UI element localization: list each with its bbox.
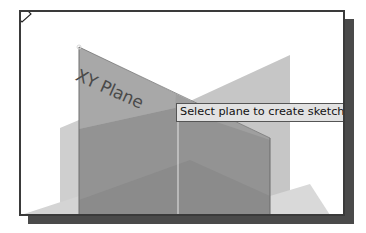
frame-shadow-bottom: [28, 215, 354, 224]
graphics-viewport[interactable]: XY Plane Select plane to create sketch o…: [19, 10, 345, 216]
tooltip: Select plane to create sketch or: [176, 103, 345, 122]
floor-plane[interactable]: [21, 196, 79, 215]
frame-shadow-right: [344, 19, 354, 224]
arrow-pointer-with-sketch-icon: [19, 10, 34, 30]
